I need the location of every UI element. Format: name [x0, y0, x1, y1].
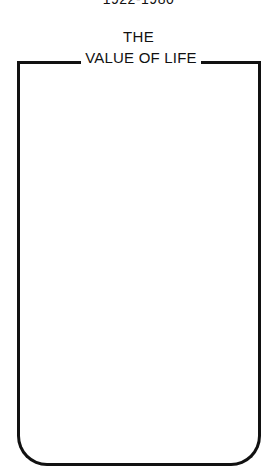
empty-content-frame: [17, 61, 261, 466]
date-range: 1922-1980: [0, 0, 277, 7]
title-line-the: THE: [0, 28, 277, 45]
